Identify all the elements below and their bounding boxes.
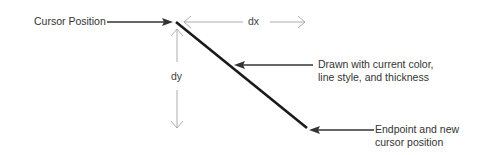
endpoint-label-line2: cursor position — [375, 136, 443, 149]
drawn-with-label-line1: Drawn with current color, — [318, 58, 434, 71]
endpoint-arrow — [309, 126, 374, 134]
line-drawing-diagram: Cursor Position dx dy Drawn with current… — [0, 0, 482, 155]
cursor-position-arrow — [107, 18, 173, 26]
dy-label: dy — [169, 70, 184, 83]
drawn-line — [176, 22, 307, 128]
drawn-with-label-line2: line style, and thickness — [318, 71, 429, 84]
drawn-with-arrow — [234, 61, 313, 69]
cursor-position-label: Cursor Position — [34, 15, 106, 28]
endpoint-label-line1: Endpoint and new — [375, 123, 459, 136]
dx-dimension-arrow — [184, 16, 305, 28]
dx-label: dx — [246, 15, 261, 28]
